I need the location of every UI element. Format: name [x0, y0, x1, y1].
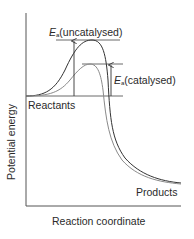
ea-symbol: E — [114, 74, 121, 86]
uncatalysed-ea-label: Ea(uncatalysed) — [49, 27, 122, 38]
reactants-label: Reactants — [28, 100, 75, 111]
products-label: Products — [136, 187, 177, 198]
uncatalysed-text: (uncatalysed) — [59, 26, 122, 38]
ea-symbol: E — [49, 26, 56, 38]
y-axis-label: Potential energy — [5, 97, 17, 187]
catalysed-ea-label: Ea(catalysed) — [114, 75, 176, 86]
x-axis-label: Reaction coordinate — [52, 216, 145, 227]
catalysed-text: (catalysed) — [124, 74, 175, 86]
uncatalysed-curve — [26, 40, 181, 183]
